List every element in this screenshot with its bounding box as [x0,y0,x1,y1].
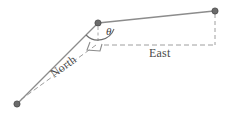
east-label: East [149,47,170,59]
node-east-end [212,8,218,14]
node-south-west-end [14,101,20,107]
vector-decomposition-figure: East North θ [0,0,228,117]
diagram-canvas [0,0,228,117]
theta-angle-label: θ [106,26,111,37]
resultant-upper-segment [98,11,214,23]
node-vertex [95,20,101,26]
